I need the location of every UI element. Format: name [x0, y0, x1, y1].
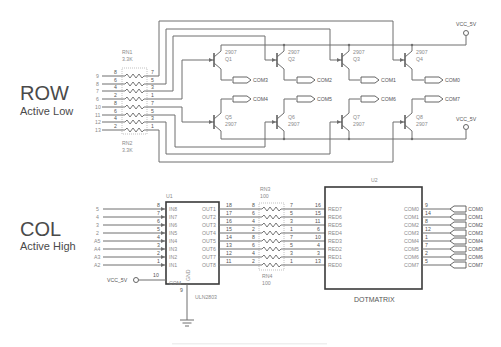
- svg-text:7: 7: [290, 234, 293, 240]
- svg-text:Q3: Q3: [353, 56, 360, 62]
- svg-text:OUT4: OUT4: [202, 230, 216, 236]
- transistor-q2: 2907 Q2: [268, 44, 300, 80]
- svg-text:COM0: COM0: [445, 77, 460, 83]
- svg-text:RED1: RED1: [328, 254, 342, 260]
- row-input-labels: 9 8 7 6 10 11 12 13: [95, 73, 101, 133]
- rn4-name: RN4: [262, 273, 272, 279]
- svg-text:IN6: IN6: [169, 222, 177, 228]
- svg-text:1: 1: [151, 92, 154, 98]
- svg-text:10: 10: [95, 104, 101, 110]
- svg-text:COM1: COM1: [404, 214, 419, 220]
- svg-text:IN5: IN5: [169, 230, 177, 236]
- u1-com-pin: 10: [153, 272, 159, 278]
- svg-text:OUT5: OUT5: [202, 238, 216, 244]
- svg-text:RED0: RED0: [328, 262, 342, 268]
- svg-text:COM2: COM2: [468, 222, 483, 228]
- svg-text:Q8: Q8: [416, 114, 423, 120]
- svg-text:2: 2: [114, 92, 117, 98]
- svg-text:8: 8: [157, 202, 160, 208]
- svg-text:3: 3: [96, 222, 99, 228]
- svg-text:COM5: COM5: [317, 96, 332, 102]
- svg-text:4: 4: [252, 218, 255, 224]
- col-title: COL: [20, 218, 61, 240]
- transistor-q4: 2907 Q4: [396, 44, 428, 80]
- svg-text:IN1: IN1: [169, 262, 177, 268]
- svg-text:7: 7: [425, 242, 428, 248]
- u1-gnd-label: GND: [185, 269, 191, 281]
- rn3-rn4-package: [259, 203, 284, 270]
- svg-text:3: 3: [317, 250, 320, 256]
- svg-text:2907: 2907: [416, 121, 428, 127]
- svg-text:2: 2: [96, 230, 99, 236]
- svg-text:1: 1: [290, 258, 293, 264]
- svg-text:COM1: COM1: [381, 77, 396, 83]
- svg-text:12: 12: [425, 226, 431, 232]
- svg-text:3: 3: [157, 242, 160, 248]
- rn1-name: RN1: [122, 49, 132, 55]
- svg-text:7: 7: [151, 100, 154, 106]
- svg-text:COM2: COM2: [404, 222, 419, 228]
- svg-text:6: 6: [114, 108, 117, 114]
- svg-text:COM6: COM6: [404, 254, 419, 260]
- svg-text:6: 6: [252, 210, 255, 216]
- svg-text:4: 4: [114, 84, 117, 90]
- svg-text:6: 6: [317, 226, 320, 232]
- u2-part: DOTMATRIX: [354, 296, 395, 303]
- svg-text:13: 13: [226, 242, 232, 248]
- svg-text:7: 7: [290, 202, 293, 208]
- svg-text:9: 9: [96, 73, 99, 79]
- row-routing-wires: [147, 21, 466, 162]
- svg-text:COM4: COM4: [468, 238, 483, 244]
- rn2-value: 3.3K: [122, 147, 133, 153]
- svg-text:RED3: RED3: [328, 238, 342, 244]
- svg-text:OUT6: OUT6: [202, 246, 216, 252]
- vcc-top: VCC_5V: [456, 21, 477, 36]
- svg-text:RED2: RED2: [328, 246, 342, 252]
- svg-text:1: 1: [290, 226, 293, 232]
- svg-text:3: 3: [290, 218, 293, 224]
- svg-text:Q4: Q4: [416, 56, 423, 62]
- svg-text:IN7: IN7: [169, 214, 177, 220]
- svg-text:A2: A2: [94, 262, 100, 268]
- svg-text:COM7: COM7: [404, 262, 419, 268]
- u2-ref: U2: [371, 177, 378, 183]
- svg-text:8: 8: [252, 202, 255, 208]
- svg-text:11: 11: [95, 112, 100, 118]
- svg-text:7: 7: [157, 210, 160, 216]
- transistor-q8: Q8 2907: [396, 99, 428, 140]
- svg-text:5: 5: [425, 258, 428, 264]
- u1-part: ULN2803: [195, 294, 217, 300]
- rn1-rn2-resistor-zigzags: [122, 74, 147, 132]
- svg-text:2907: 2907: [288, 49, 300, 55]
- svg-text:COM3: COM3: [404, 230, 419, 236]
- svg-text:Q1: Q1: [225, 56, 232, 62]
- svg-text:2: 2: [114, 123, 117, 129]
- svg-text:8: 8: [96, 81, 99, 87]
- svg-text:COM2: COM2: [317, 77, 332, 83]
- svg-text:11: 11: [226, 258, 231, 264]
- rn2-name: RN2: [122, 140, 132, 146]
- svg-text:12: 12: [95, 119, 101, 125]
- svg-text:COM6: COM6: [468, 254, 483, 260]
- svg-text:2907: 2907: [416, 49, 428, 55]
- svg-text:17: 17: [226, 210, 232, 216]
- svg-text:8: 8: [425, 218, 428, 224]
- svg-text:5: 5: [290, 210, 293, 216]
- svg-text:COM5: COM5: [468, 246, 483, 252]
- col-input-wires: [103, 209, 165, 265]
- svg-text:IN3: IN3: [169, 246, 177, 252]
- svg-text:10: 10: [315, 234, 321, 240]
- svg-text:5: 5: [290, 242, 293, 248]
- svg-text:16: 16: [226, 218, 232, 224]
- transistor-q7: Q7 2907: [333, 99, 365, 140]
- svg-text:2: 2: [252, 258, 255, 264]
- svg-text:11: 11: [315, 218, 320, 224]
- svg-text:6: 6: [252, 242, 255, 248]
- svg-text:5: 5: [96, 206, 99, 212]
- svg-text:COM7: COM7: [468, 262, 483, 268]
- svg-text:3: 3: [151, 84, 154, 90]
- u1-ref: U1: [166, 193, 173, 199]
- svg-text:6: 6: [157, 218, 160, 224]
- svg-text:2: 2: [252, 226, 255, 232]
- svg-text:5: 5: [151, 77, 154, 83]
